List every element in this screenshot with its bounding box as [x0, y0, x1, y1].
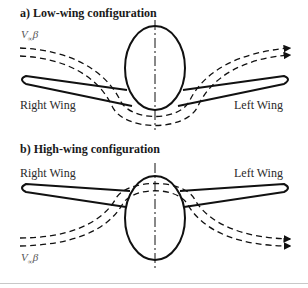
- left-wing: [180, 184, 288, 207]
- flow-suffix: β: [33, 251, 38, 263]
- flow-symbol: V: [21, 251, 28, 263]
- flow-symbol: V: [21, 28, 28, 40]
- low-wing-panel: [20, 20, 290, 130]
- right-wing: [22, 184, 130, 207]
- left-wing-label: Left Wing: [234, 166, 283, 181]
- flow-velocity-label: V∞β: [21, 251, 38, 266]
- right-wing-label: Right Wing: [20, 166, 76, 181]
- right-wing-label: Right Wing: [20, 98, 76, 113]
- panel-a-title: a) Low-wing configuration: [20, 6, 157, 21]
- bottom-divider: [0, 283, 308, 284]
- flow-suffix: β: [33, 28, 38, 40]
- panel-b-title: b) High-wing configuration: [20, 142, 160, 157]
- flow-velocity-label: V∞β: [21, 28, 38, 43]
- left-wing-label: Left Wing: [234, 98, 283, 113]
